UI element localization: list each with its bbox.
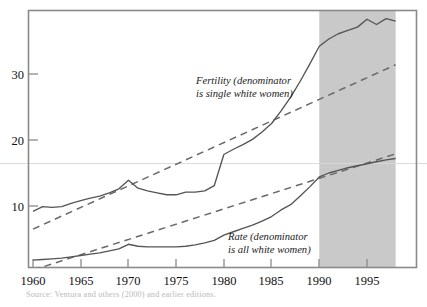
line-chart-canvas: 30 20 10 1960 1965 1970 1975 1980 1985 1…	[0, 0, 427, 307]
fertility-label-line1: Fertility (denominator	[195, 75, 292, 87]
y-tick-label-30: 30	[12, 68, 25, 82]
x-tick-label-1975: 1975	[164, 274, 189, 288]
y-tick-labels: 30 20 10	[12, 68, 25, 214]
y-tick-label-10: 10	[12, 200, 25, 214]
x-tick-label-1990: 1990	[307, 274, 332, 288]
annotation-rate: Rate (denominator is all white women)	[227, 231, 311, 256]
x-axis-ticks	[33, 259, 367, 268]
x-tick-label-1985: 1985	[259, 274, 284, 288]
fertility-label-line2: is single white women)	[196, 88, 293, 100]
rate-label-line2: is all white women)	[228, 244, 311, 256]
chart-figure: 30 20 10 1960 1965 1970 1975 1980 1985 1…	[0, 0, 427, 307]
rate-label-line1: Rate (denominator	[227, 231, 309, 243]
x-tick-label-1980: 1980	[212, 274, 237, 288]
x-tick-label-1965: 1965	[69, 274, 94, 288]
x-tick-label-1970: 1970	[116, 274, 141, 288]
shaded-region-1990-1998	[319, 10, 395, 268]
source-caption: Source: Ventura and others (2000) and ea…	[26, 290, 426, 299]
x-tick-labels: 1960 1965 1970 1975 1980 1985 1990 1995	[21, 274, 380, 288]
annotation-fertility: Fertility (denominator is single white w…	[195, 75, 293, 100]
y-tick-label-20: 20	[12, 134, 25, 148]
y-axis-ticks	[28, 74, 38, 206]
x-tick-label-1995: 1995	[355, 274, 380, 288]
x-tick-label-1960: 1960	[21, 274, 46, 288]
